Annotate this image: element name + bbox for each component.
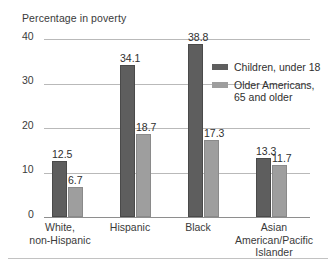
bar-older-asian[interactable]: [272, 165, 287, 217]
category-label-asian-american-pacific-islander: Asian American/Pacific Islander: [222, 221, 326, 259]
category-label-white-non-hispanic: White, non-Hispanic: [22, 221, 98, 246]
chart-legend: Children, under 18 Older Americans, 65 a…: [212, 61, 336, 109]
bar-group-hispanic: 34.1 18.7: [120, 39, 166, 217]
axis-baseline-0: [44, 217, 310, 218]
legend-swatch-icon: [212, 82, 228, 88]
y-tick-label-40: 40: [22, 30, 34, 42]
legend-label-line: 65 and older: [234, 91, 336, 103]
y-tick-label-10: 10: [22, 163, 34, 175]
bar-value-older-hispanic: 18.7: [136, 121, 156, 133]
category-label-line: American/Pacific: [222, 234, 326, 247]
category-label-line: Islander: [222, 246, 326, 259]
legend-item-children[interactable]: Children, under 18: [212, 61, 336, 73]
bar-children-black[interactable]: [188, 44, 203, 217]
bar-older-white[interactable]: [68, 187, 83, 217]
legend-label-line: Children, under 18: [234, 61, 336, 73]
bar-value-older-white: 6.7: [68, 174, 83, 186]
y-tick-label-30: 30: [22, 74, 34, 86]
category-label-line: White,: [22, 221, 98, 234]
chart-title: Percentage in poverty: [22, 12, 126, 24]
bar-children-white[interactable]: [52, 161, 67, 217]
category-label-line: Asian: [222, 221, 326, 234]
bar-children-asian[interactable]: [256, 158, 271, 217]
y-tick-label-20: 20: [22, 119, 34, 131]
legend-item-older-americans[interactable]: Older Americans, 65 and older: [212, 79, 336, 103]
category-label-hispanic: Hispanic: [92, 221, 168, 234]
category-label-line: non-Hispanic: [22, 234, 98, 247]
bar-older-hispanic[interactable]: [136, 134, 151, 217]
bar-value-older-black: 17.3: [204, 127, 224, 139]
bar-value-children-black: 38.8: [188, 31, 208, 43]
bar-older-black[interactable]: [204, 140, 219, 217]
y-tick-label-0: 0: [28, 208, 34, 220]
legend-label-line: Older Americans,: [234, 79, 336, 91]
bar-group-white-non-hispanic: 12.5 6.7: [52, 39, 98, 217]
legend-label-children: Children, under 18: [234, 61, 336, 73]
poverty-percentage-bar-chart: Percentage in poverty 12.5 6.7 34.1: [0, 0, 336, 266]
bar-value-older-asian: 11.7: [272, 152, 292, 164]
bar-value-children-white: 12.5: [52, 148, 72, 160]
bottom-divider: [8, 258, 328, 259]
bar-children-hispanic[interactable]: [120, 65, 135, 217]
legend-swatch-icon: [212, 64, 228, 70]
bar-value-children-hispanic: 34.1: [120, 52, 140, 64]
legend-label-older-americans: Older Americans, 65 and older: [234, 79, 336, 103]
category-label-line: Hispanic: [92, 221, 168, 234]
